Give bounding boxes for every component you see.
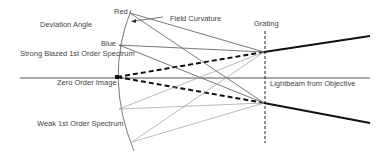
weak-ray-3 [119, 103, 264, 109]
blue-ray-lower [119, 45, 264, 103]
lightbeam-upper [264, 36, 370, 52]
red-label: Red [114, 8, 128, 16]
weak-ray-1 [119, 52, 264, 109]
blue-label: Blue [101, 40, 116, 48]
arrowhead-icon [131, 19, 136, 23]
lightbeam-lower [264, 103, 370, 123]
zero-order-image-label: Zero Order Image [57, 79, 117, 87]
weak-ray-2 [132, 52, 264, 142]
weak-ray-4 [132, 103, 264, 142]
field-curvature-arc [118, 10, 134, 151]
red-ray-lower [130, 13, 264, 103]
strong-blazed-label: Strong Blazed 1st Order Spectrum [20, 50, 135, 58]
weak-order-label: Weak 1st Order Spectrum [37, 120, 124, 128]
lightbeam-label: Lightbeam from Objective [270, 80, 355, 88]
deviation-angle-label: Deviation Angle [40, 21, 92, 29]
grating-label: Grating [254, 20, 279, 28]
field-curvature-label: Field Curvature [170, 15, 221, 23]
